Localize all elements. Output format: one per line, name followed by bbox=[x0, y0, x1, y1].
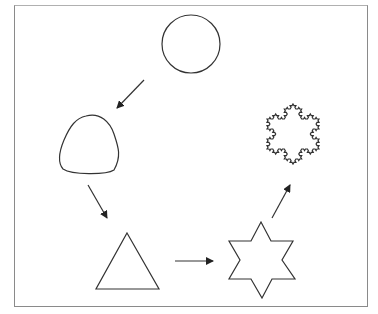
arrow-star-to-snowflake bbox=[272, 185, 290, 218]
node-snowflake: Koch snowflake bbox=[267, 104, 319, 164]
arrow-circle-to-rounded-triangle bbox=[117, 80, 144, 108]
node-circle: Circle bbox=[162, 15, 220, 73]
arrow-rounded-triangle-to-triangle bbox=[88, 185, 107, 218]
node-triangle: Triangle bbox=[96, 233, 159, 289]
node-star: Six-pointed star bbox=[229, 222, 295, 298]
node-rounded-triangle: Rounded triangle bbox=[59, 115, 118, 174]
diagram-canvas: Circle Rounded triangle Triangle Six-poi… bbox=[0, 0, 378, 314]
